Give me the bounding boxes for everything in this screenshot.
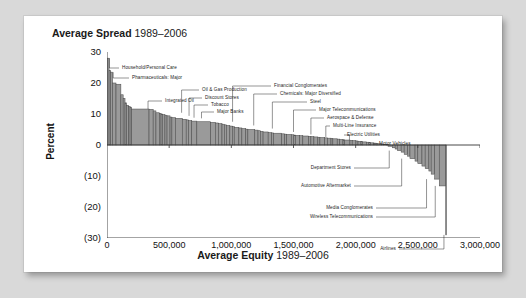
- x-axis-title-years: 1989–2006: [276, 249, 329, 261]
- annotation-labels: Household/Personal CarePharmaceuticals: …: [24, 16, 502, 272]
- annotation-label: Motor Vehicles: [379, 141, 411, 146]
- annotation-label: Electric Utilities: [347, 132, 380, 137]
- annotation-label: Steel: [310, 99, 321, 104]
- annotation-label: Automotive Aftermarket: [24, 183, 351, 188]
- annotation-label: Household/Personal Care: [122, 65, 177, 70]
- annotation-label: Integrated Oil: [165, 98, 194, 103]
- annotation-label: Department Stores: [24, 165, 351, 170]
- annotation-label: Wireless Telecommunications: [24, 214, 373, 219]
- annotation-label: Pharmaceuticals: Major: [132, 75, 182, 80]
- page-background: Average Spread 1989–2006 Percent 3020100…: [0, 0, 526, 298]
- annotation-label: Aerospace & Defense: [327, 115, 374, 120]
- annotation-label: Financial Conglomerates: [274, 83, 327, 88]
- x-axis-title: Average Equity 1989–2006: [24, 249, 502, 261]
- annotation-label: Multi-Line Insurance: [333, 123, 376, 128]
- annotation-label: Major Banks: [217, 109, 244, 114]
- annotation-label: Media Conglomerates: [24, 205, 373, 210]
- annotation-label: Tobacco: [211, 102, 229, 107]
- annotation-label: Discount Stores: [205, 95, 239, 100]
- annotation-label: Chemicals: Major Diversified: [280, 91, 341, 96]
- x-axis-title-main: Average Equity: [197, 249, 273, 261]
- chart-card: Average Spread 1989–2006 Percent 3020100…: [24, 16, 502, 272]
- annotation-label: Major Telecommunications: [319, 107, 376, 112]
- annotation-label: Oil & Gas Production: [202, 87, 247, 92]
